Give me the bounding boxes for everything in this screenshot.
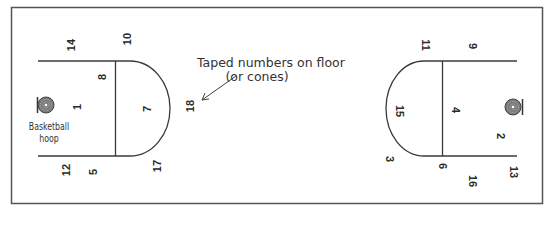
floor-number-15: 15 [394,105,405,117]
floor-number-9: 9 [467,43,478,49]
floor-number-4: 4 [450,107,461,113]
floor-number-17: 17 [152,160,163,172]
floor-number-8: 8 [97,74,108,80]
floor-number-1: 1 [72,104,83,110]
floor-number-5: 5 [88,169,99,175]
floor-number-13: 13 [508,166,519,178]
annotation-line-1: Taped numbers on floor [197,56,317,70]
basketball-hoop-icon [38,97,55,113]
annotation-caption: Taped numbers on floor (or cones) [197,56,317,84]
floor-number-6: 6 [437,163,448,169]
hoop-label-line-1: Basketball [27,121,71,133]
floor-number-11: 11 [420,39,431,51]
floor-number-12: 12 [61,164,72,176]
floor-number-16: 16 [467,175,478,187]
hoop-label-line-2: hoop [27,133,71,145]
floor-number-18: 18 [185,100,196,112]
floor-number-10: 10 [122,33,133,45]
basketball-hoop-icon [505,99,523,115]
floor-number-3: 3 [384,156,395,162]
annotation-line-2: (or cones) [197,70,317,84]
floor-number-7: 7 [142,106,153,112]
hoop-label: Basketball hoop [27,121,71,145]
floor-number-2: 2 [495,133,506,139]
floor-number-14: 14 [66,39,77,51]
